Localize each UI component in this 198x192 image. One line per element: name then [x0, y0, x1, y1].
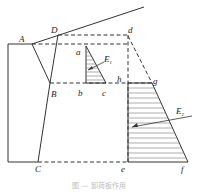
label-D: D	[50, 25, 58, 35]
label-B: B	[51, 89, 57, 99]
label-f: f	[181, 164, 185, 174]
label-E2: E2	[175, 106, 185, 117]
pressure-trapezoid-e2	[128, 83, 192, 162]
label-A: A	[18, 34, 25, 44]
label-a: a	[76, 47, 81, 57]
label-g: g	[153, 76, 158, 86]
label-e: e	[121, 164, 125, 174]
label-E1: E1	[103, 54, 112, 65]
figure-caption: 图 — 卸荷板作用	[72, 181, 125, 190]
retaining-wall-diagram: A D B C d a b c h g e f E1 E2 图 — 卸荷板作用	[0, 0, 198, 192]
wall-outline	[8, 7, 144, 162]
label-C: C	[35, 164, 42, 174]
label-h: h	[117, 74, 122, 84]
pressure-triangle-e1	[86, 46, 106, 83]
label-b: b	[78, 88, 83, 98]
label-c: c	[102, 88, 106, 98]
label-d: d	[128, 25, 133, 35]
